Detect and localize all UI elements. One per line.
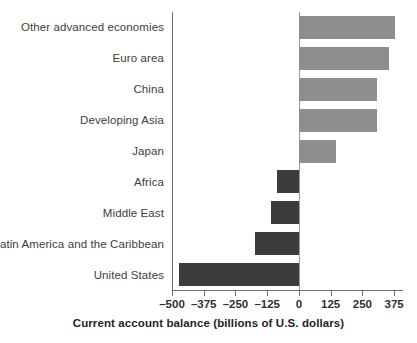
bar (271, 201, 299, 224)
y-axis-category-labels: Other advanced economiesEuro areaChinaDe… (0, 12, 168, 290)
y-axis-label: China (133, 83, 164, 95)
x-tick-mark (172, 291, 173, 296)
x-tick-mark (331, 291, 332, 296)
y-axis-label: Other advanced economies (21, 21, 164, 33)
y-axis-label: Latin America and the Caribbean (0, 238, 164, 250)
bar (277, 170, 299, 193)
x-tick-mark (362, 291, 363, 296)
bar-chart: Other advanced economiesEuro areaChinaDe… (0, 0, 417, 343)
x-tick-mark (299, 291, 300, 296)
x-tick-label: –375 (191, 298, 217, 311)
bar (299, 140, 336, 163)
x-tick-mark (204, 291, 205, 296)
bar (255, 232, 299, 255)
x-tick-mark (394, 291, 395, 296)
y-axis-label: Developing Asia (80, 114, 164, 126)
x-tick-label: –500 (159, 298, 185, 311)
y-axis-line (172, 12, 173, 290)
plot-area (172, 12, 403, 290)
x-tick-mark (235, 291, 236, 296)
y-axis-label: Africa (134, 176, 164, 188)
x-tick-label: –125 (254, 298, 280, 311)
y-axis-label: Japan (132, 145, 164, 157)
bar (299, 47, 389, 70)
x-axis-title: Current account balance (billions of U.S… (0, 317, 417, 329)
bar (299, 16, 395, 39)
x-axis-line (172, 290, 403, 291)
y-axis-label: Middle East (103, 207, 164, 219)
x-tick-label: –250 (223, 298, 249, 311)
x-tick-mark (267, 291, 268, 296)
y-axis-label: Euro area (113, 52, 164, 64)
y-axis-label: United States (94, 269, 164, 281)
x-tick-label: 125 (321, 298, 340, 311)
x-tick-label: 0 (296, 298, 302, 311)
bar (299, 78, 377, 101)
bar (299, 109, 377, 132)
bar (179, 263, 299, 286)
x-tick-label: 375 (385, 298, 404, 311)
x-tick-label: 250 (353, 298, 372, 311)
